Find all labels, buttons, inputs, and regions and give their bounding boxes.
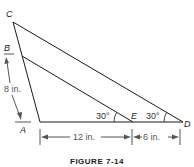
arrowhead-icon xyxy=(124,135,131,140)
angle-arc-E xyxy=(114,113,117,123)
dim-arrow-down xyxy=(12,95,19,114)
point-label-D: D xyxy=(184,119,191,129)
dim-arrow-up xyxy=(7,62,10,83)
point-label-A: A xyxy=(19,125,26,135)
dim-label-AE: 12 in. xyxy=(73,132,95,142)
line-CD xyxy=(13,22,183,122)
arrowhead-icon xyxy=(172,135,179,140)
arrowhead-icon xyxy=(41,135,48,140)
figure-caption: FIGURE 7-14 xyxy=(70,157,124,166)
geometry-diagram: 8 in. 12 in. 6 in. C B A E D 30° 30° FIG… xyxy=(0,0,194,167)
dim-label-AB: 8 in. xyxy=(4,84,21,94)
point-label-B: B xyxy=(4,43,10,53)
line-BE xyxy=(22,56,133,122)
angle-label-D: 30° xyxy=(146,111,160,121)
angle-label-E: 30° xyxy=(96,111,110,121)
arrowhead-icon xyxy=(5,57,10,64)
angle-arc-D xyxy=(164,113,167,123)
point-label-C: C xyxy=(6,9,13,19)
arrowhead-icon xyxy=(17,112,22,120)
line-CA xyxy=(13,22,40,122)
point-label-E: E xyxy=(131,111,138,121)
dim-label-ED: 6 in. xyxy=(143,132,160,142)
